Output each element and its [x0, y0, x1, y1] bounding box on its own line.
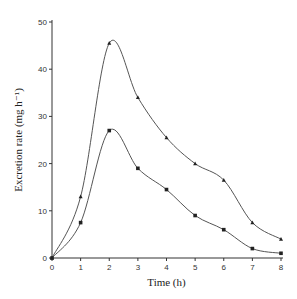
series-line-1	[52, 129, 281, 258]
y-tick-label: 40	[38, 65, 47, 74]
x-tick-label: 1	[78, 263, 83, 272]
y-tick-label: 10	[38, 207, 47, 216]
data-point-square	[107, 129, 111, 133]
x-tick-label: 3	[136, 263, 141, 272]
y-axis-title: Excretion rate (mg h⁻¹)	[12, 88, 25, 192]
data-point-square	[50, 256, 54, 260]
x-tick-label: 2	[107, 263, 112, 272]
y-tick-label: 30	[38, 112, 47, 121]
y-tick-label: 20	[38, 160, 47, 169]
x-tick-label: 0	[50, 263, 55, 272]
x-tick-label: 7	[250, 263, 255, 272]
data-point-square	[193, 214, 197, 218]
data-point-square	[279, 251, 283, 255]
data-point-square	[136, 167, 140, 171]
x-axis-title: Time (h)	[147, 276, 186, 289]
x-tick-label: 5	[193, 263, 198, 272]
y-tick-label: 50	[38, 18, 47, 27]
series-line-0	[52, 40, 281, 258]
y-tick-label: 0	[43, 254, 48, 263]
data-point-square	[222, 228, 226, 232]
data-point-square	[165, 188, 169, 192]
data-point-square	[251, 247, 255, 251]
data-point-triangle	[79, 194, 83, 198]
x-tick-label: 8	[279, 263, 284, 272]
x-tick-label: 4	[164, 263, 169, 272]
excretion-rate-chart: 01020304050012345678Time (h)Excretion ra…	[0, 0, 297, 299]
data-point-square	[79, 221, 83, 225]
x-tick-label: 6	[222, 263, 227, 272]
